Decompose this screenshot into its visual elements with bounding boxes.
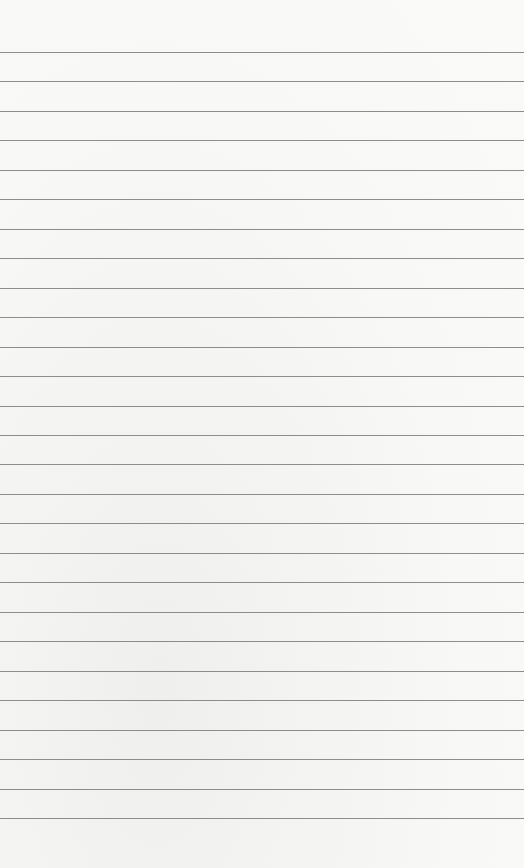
ruled-line [0,81,524,82]
ruled-line [0,435,524,436]
ruled-line [0,789,524,790]
ruled-line [0,140,524,141]
ruled-line [0,52,524,53]
ruled-line [0,671,524,672]
ruled-line [0,258,524,259]
ruled-line [0,730,524,731]
ruled-line [0,523,524,524]
ruled-line [0,464,524,465]
ruled-line [0,317,524,318]
ruled-line [0,199,524,200]
ruled-line [0,229,524,230]
ruled-line [0,582,524,583]
ruled-line [0,376,524,377]
ruled-line [0,111,524,112]
ruled-line [0,612,524,613]
ruled-line [0,494,524,495]
lined-paper [0,0,524,868]
ruled-line [0,553,524,554]
ruled-line [0,288,524,289]
ruled-line [0,641,524,642]
ruled-line [0,759,524,760]
ruled-line [0,700,524,701]
ruled-line [0,818,524,819]
ruled-line [0,347,524,348]
ruled-line [0,406,524,407]
ruled-line [0,170,524,171]
